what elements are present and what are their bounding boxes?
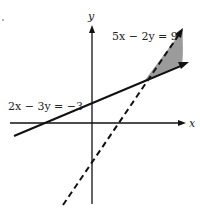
dashed-line	[63, 33, 180, 205]
x-axis-arrow-icon	[178, 120, 186, 126]
dashed-line-label: 5x − 2y = 9	[112, 30, 178, 43]
solid-line-arrow-icon	[178, 62, 189, 69]
y-axis-arrow-icon	[89, 25, 95, 33]
x-axis-label: x	[189, 117, 196, 130]
speck	[2, 19, 4, 21]
inequality-graph: y x 5x − 2y = 9 2x − 3y = −3	[0, 0, 200, 212]
y-axis-label: y	[87, 10, 95, 23]
solid-line-label: 2x − 3y = −3	[8, 100, 83, 113]
